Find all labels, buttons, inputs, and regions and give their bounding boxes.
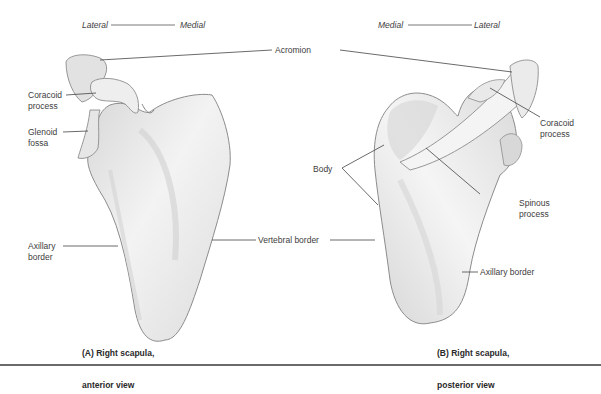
- label-vertebral-border: Vertebral border: [258, 235, 319, 246]
- label-coracoid-process-a: Coracoid process: [28, 90, 62, 111]
- label-glenoid-fossa: Glenoid fossa: [28, 127, 57, 148]
- label-coracoid-process-b: Coracoid process: [540, 118, 574, 139]
- caption-a: (A) Right scapula, anterior view: [82, 327, 154, 394]
- caption-b: (B) Right scapula, posterior view: [437, 327, 509, 394]
- orientation-medial-a: Medial: [180, 20, 205, 31]
- label-spinous-process: Spinous process: [519, 198, 550, 219]
- bottom-rule: [0, 364, 601, 366]
- scapula-anterior: [66, 55, 230, 341]
- label-axillary-border-a: Axillary border: [28, 241, 55, 262]
- label-acromion: Acromion: [275, 45, 311, 56]
- orientation-lateral-b: Lateral: [474, 20, 500, 31]
- orientation-medial-b: Medial: [378, 20, 403, 31]
- scapula-posterior: [374, 60, 538, 324]
- label-axillary-border-b: Axillary border: [480, 267, 534, 278]
- orientation-lateral-a: Lateral: [82, 20, 108, 31]
- label-body: Body: [313, 164, 332, 175]
